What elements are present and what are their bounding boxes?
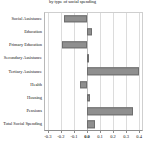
chart-title: by type of social spending	[0, 0, 145, 4]
y-axis-label: Education	[0, 30, 42, 35]
x-tick-label: 0.4	[131, 134, 145, 139]
x-tick-mark	[87, 131, 88, 133]
y-axis-label: Secondary Assistance	[0, 56, 42, 61]
bar-chart-figure: by type of social spending Social Assist…	[0, 0, 145, 148]
x-tick-mark	[113, 131, 114, 133]
x-tick-mark	[74, 131, 75, 133]
plot-area	[44, 12, 143, 131]
x-tick-mark	[126, 131, 127, 133]
y-axis-label: Total Social Spending	[0, 122, 42, 127]
y-axis-label: Housing	[0, 96, 42, 101]
x-tick-mark	[48, 131, 49, 133]
y-axis-label: Tertiary Assistance	[0, 69, 42, 74]
x-tick-mark	[139, 131, 140, 133]
y-axis-label: Social Assistance	[0, 16, 42, 21]
y-axis-label: Health	[0, 82, 42, 87]
x-tick-mark	[100, 131, 101, 133]
y-axis-label: Primary Education	[0, 43, 42, 48]
plot-frame	[44, 12, 143, 131]
x-tick-mark	[61, 131, 62, 133]
y-axis-label: Pensions	[0, 109, 42, 114]
